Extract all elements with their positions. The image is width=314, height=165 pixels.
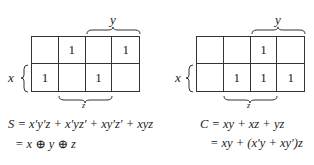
kmap-cell: 1 <box>59 37 86 64</box>
sum-equation-line2: = x ⊕ y ⊕ z <box>15 136 76 152</box>
var-y-label: y <box>275 12 281 28</box>
kmap-cell <box>59 64 86 91</box>
kmap-cell: 1 <box>251 64 278 91</box>
var-z-label: z <box>82 101 85 110</box>
kmap-grid: 1 1 1 1 <box>196 36 305 92</box>
kmap-cell <box>277 37 304 64</box>
kmap-cell: 1 <box>86 64 113 91</box>
kmap-cell <box>197 64 224 91</box>
kmap-cell <box>112 64 139 91</box>
kmap-cell <box>86 37 113 64</box>
kmap-sum: 1 1 1 1 <box>31 36 140 92</box>
carry-equation-line2: = xy + (x′y + xy′)z <box>210 136 303 151</box>
kmap-cell <box>197 37 224 64</box>
kmap-cell: 1 <box>224 64 251 91</box>
kmap-grid: 1 1 1 1 <box>31 36 140 92</box>
kmap-cell: 1 <box>251 37 278 64</box>
sum-equation-line1: S = x′y′z + x′yz′ + xy′z′ + xyz <box>8 117 153 132</box>
kmap-cell <box>32 37 59 64</box>
brace-z-icon <box>223 96 279 104</box>
kmap-cell: 1 <box>32 64 59 91</box>
kmap-cell: 1 <box>277 64 304 91</box>
brace-z-icon <box>58 96 114 104</box>
kmap-carry: 1 1 1 1 <box>196 36 305 92</box>
var-z-label: z <box>247 101 250 110</box>
var-x-label: x <box>175 70 181 86</box>
var-x-label: x <box>8 70 14 86</box>
brace-y-icon <box>86 27 142 35</box>
kmap-cell: 1 <box>112 37 139 64</box>
kmap-cell <box>224 37 251 64</box>
brace-x-icon <box>185 64 194 94</box>
brace-x-icon <box>20 64 29 94</box>
brace-y-icon <box>251 27 307 35</box>
carry-equation-line1: C = xy + xz + yz <box>200 117 284 132</box>
var-y-label: y <box>110 12 116 28</box>
